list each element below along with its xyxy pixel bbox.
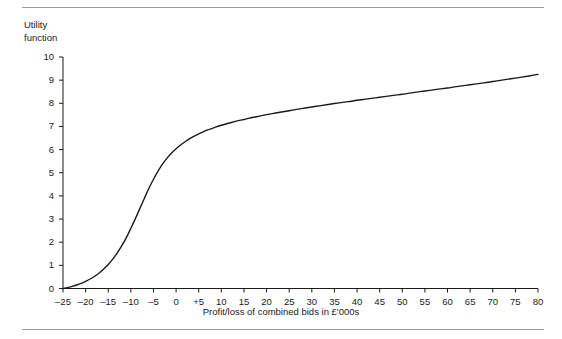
y-tick-label: 7 [30, 120, 54, 131]
axis-ticks [59, 57, 538, 293]
plot-area [0, 0, 562, 339]
y-tick-label: 8 [30, 97, 54, 108]
x-tick-label: 80 [523, 296, 553, 307]
y-tick-label: 3 [30, 213, 54, 224]
y-tick-label: 0 [30, 283, 54, 294]
y-tick-label: 4 [30, 190, 54, 201]
utility-curve [63, 74, 538, 288]
y-tick-label: 10 [30, 51, 54, 62]
y-tick-label: 9 [30, 74, 54, 85]
y-tick-label: 2 [30, 236, 54, 247]
y-tick-label: 1 [30, 259, 54, 270]
y-tick-label: 6 [30, 144, 54, 155]
y-tick-label: 5 [30, 167, 54, 178]
figure-container: Utility function Profit/loss of combined… [0, 0, 562, 339]
axes-group [63, 57, 538, 289]
